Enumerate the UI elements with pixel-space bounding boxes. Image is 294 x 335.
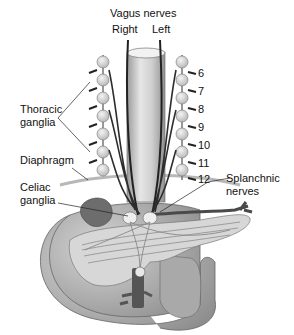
celiac-ganglia-label-line2: ganglia: [20, 194, 55, 207]
left-vagus-label: Left: [152, 23, 170, 36]
diagram-artwork: [0, 0, 294, 335]
thoracic-ganglia-label-line1: Thoracic: [20, 103, 62, 116]
level-8: 8: [198, 103, 204, 115]
level-10: 10: [198, 139, 210, 151]
thoracic-ganglia-label-line2: ganglia: [20, 116, 55, 129]
level-6: 6: [198, 67, 204, 79]
autonomic-innervation-diagram: Vagus nerves Right Left Thoracic ganglia…: [0, 0, 294, 335]
celiac-ganglia-label-line1: Celiac: [20, 181, 51, 194]
level-7: 7: [198, 85, 204, 97]
splanchnic-nerves-label-line2: nerves: [226, 185, 259, 198]
right-vagus-label: Right: [112, 23, 138, 36]
diaphragm-label: Diaphragm: [20, 154, 74, 167]
level-9: 9: [198, 121, 204, 133]
level-11: 11: [198, 157, 209, 169]
splanchnic-nerves-label-line1: Splanchnic: [226, 172, 280, 185]
level-12: 12: [198, 173, 210, 185]
vagus-nerves-label: Vagus nerves: [110, 7, 176, 20]
